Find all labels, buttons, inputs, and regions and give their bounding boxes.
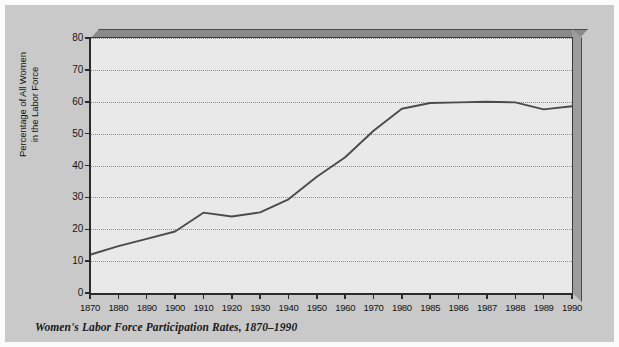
- figure-panel: 01020304050607080 1870188018901900191019…: [0, 0, 619, 347]
- y-tick-mark-80: [85, 37, 90, 39]
- y-tick-label-30: 30: [57, 192, 83, 202]
- y-tick-mark-50: [85, 133, 90, 135]
- y-tick-mark-20: [85, 229, 90, 231]
- y-axis-title: Percentage of All Women in the Labor For…: [17, 45, 40, 165]
- y-tick-mark-40: [85, 165, 90, 167]
- y-tick-label-50: 50: [57, 129, 83, 139]
- x-tick-mark-1980: [401, 293, 403, 299]
- x-tick-mark-1985: [429, 293, 431, 299]
- y-tick-label-40: 40: [57, 161, 83, 171]
- x-tick-label-1990: 1990: [555, 302, 589, 313]
- y-tick-label-20: 20: [57, 224, 83, 234]
- y-tick-mark-70: [85, 69, 90, 71]
- x-tick-mark-1988: [515, 293, 517, 299]
- x-tick-mark-1930: [259, 293, 261, 299]
- x-tick-mark-1880: [118, 293, 120, 299]
- x-tick-mark-1960: [344, 293, 346, 299]
- y-tick-label-70: 70: [57, 65, 83, 75]
- x-tick-mark-1870: [89, 293, 91, 299]
- x-tick-mark-1987: [486, 293, 488, 299]
- x-tick-mark-1910: [203, 293, 205, 299]
- chart-plot-area: [90, 38, 572, 293]
- y-axis-title-line-2: in the Labor Force: [28, 45, 40, 165]
- x-tick-mark-1950: [316, 293, 318, 299]
- x-axis-line: [89, 293, 573, 295]
- x-tick-mark-1989: [543, 293, 545, 299]
- figure-caption: Women's Labor Force Participation Rates,…: [35, 321, 297, 333]
- y-tick-label-0: 0: [57, 288, 83, 298]
- plot-3d-right-extrusion: [572, 29, 582, 302]
- x-tick-mark-1970: [373, 293, 375, 299]
- x-tick-mark-1890: [146, 293, 148, 299]
- y-tick-mark-10: [85, 260, 90, 262]
- y-tick-label-60: 60: [57, 97, 83, 107]
- x-tick-mark-1986: [458, 293, 460, 299]
- x-tick-mark-1940: [288, 293, 290, 299]
- y-tick-mark-30: [85, 197, 90, 199]
- y-tick-label-10: 10: [57, 256, 83, 266]
- x-tick-mark-1990: [571, 293, 573, 299]
- y-tick-mark-60: [85, 101, 90, 103]
- y-tick-label-80: 80: [57, 33, 83, 43]
- y-axis-title-line-1: Percentage of All Women: [17, 45, 29, 165]
- x-tick-mark-1900: [174, 293, 176, 299]
- line-series-participation-rate: [90, 38, 572, 293]
- x-tick-mark-1920: [231, 293, 233, 299]
